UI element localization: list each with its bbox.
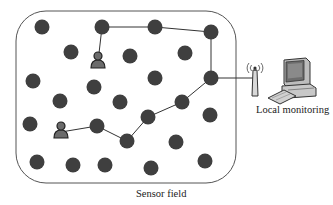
sensor-node [141,110,156,125]
sensor-node [203,108,218,123]
sensor-node [198,154,213,169]
sensor-node [178,46,193,61]
antenna-icon [247,63,263,96]
sensor-node [123,49,138,64]
sensor-node [113,95,128,110]
sensor-node [98,158,113,173]
sensor-node [35,20,50,35]
sensor-nodes [23,20,219,176]
sensor-node [204,25,219,40]
local-monitoring-label: Local monitoring [256,104,329,115]
sensor-node [87,80,102,95]
sensor-field-label: Sensor field [136,188,186,199]
sensor-node [148,71,163,86]
user-icon [54,122,68,138]
sensor-node [90,119,105,134]
sensor-node [169,135,184,150]
network-link [155,27,211,32]
sensor-node [204,71,219,86]
sensor-node [66,158,81,173]
computer-icon [268,58,316,104]
sensor-node [95,20,110,35]
user-icon [91,52,105,68]
sensor-node [175,95,190,110]
sensor-node [26,74,41,89]
sensor-node [144,161,159,176]
sensor-node [64,45,79,60]
sensor-node [30,155,45,170]
sensor-node [148,20,163,35]
sensor-node [53,94,68,109]
sensor-node [120,134,135,149]
sensor-node [23,117,38,132]
sensor-network-diagram [0,0,333,205]
